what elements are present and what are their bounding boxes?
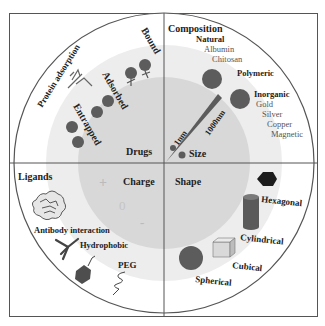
antibody-interaction-label: Antibody interaction (34, 225, 110, 235)
charge-minus-icon: - (140, 215, 144, 230)
entrapped-drug-icon (66, 121, 78, 133)
entrapped-drug-icon (72, 136, 84, 148)
copper-label: Copper (267, 119, 292, 129)
composition-title: Composition (168, 23, 223, 34)
polymeric-particle-icon (202, 69, 222, 89)
medium-particle-icon (179, 152, 186, 159)
hydrophobic-label: Hydrophobic (80, 240, 128, 250)
polymeric-label: Polymeric (237, 68, 274, 78)
charge-title: Charge (123, 176, 155, 187)
adsorbed-drug-icon (91, 106, 103, 118)
size-title: Size (189, 148, 207, 159)
natural-label: Natural (196, 34, 225, 44)
cylindrical-shape-icon (243, 194, 259, 230)
inorganic-label: Inorganic (254, 89, 290, 99)
albumin-label: Albumin (204, 44, 235, 54)
spherical-shape-icon (179, 246, 203, 270)
charge-neutral-icon: 0 (119, 198, 126, 213)
small-particle-icon (170, 145, 176, 151)
charge-plus-icon: + (99, 175, 107, 190)
chitosan-label: Chitosan (212, 54, 243, 64)
shape-title: Shape (175, 176, 202, 187)
gold-label: Gold (256, 99, 274, 109)
cubical-shape-icon (213, 238, 235, 257)
ligands-title: Ligands (18, 171, 53, 182)
silver-label: Silver (262, 109, 282, 119)
inorganic-particle-icon (230, 89, 250, 109)
peg-label: PEG (118, 260, 137, 270)
magnetic-label: Magnetic (271, 129, 303, 139)
nanoparticle-properties-diagram: Protein adsorption Bound Adsorbed Entrap… (0, 0, 325, 326)
drugs-title: Drugs (126, 146, 152, 157)
adsorbed-drug-icon (102, 95, 114, 107)
